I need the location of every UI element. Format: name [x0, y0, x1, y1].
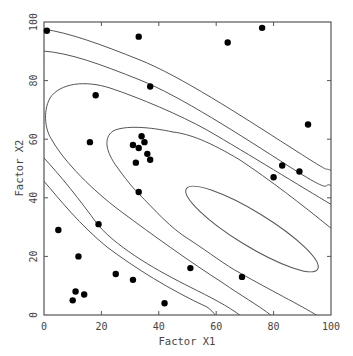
data-point [72, 288, 78, 294]
data-point [136, 145, 142, 151]
data-point [136, 189, 142, 195]
data-point [92, 92, 98, 98]
data-point [259, 25, 265, 31]
contour-scatter-plot: 0 20 40 60 80 100 0 20 40 60 80 100 Fact… [0, 0, 353, 356]
x-tick-label: 40 [153, 321, 165, 332]
data-point [161, 300, 167, 306]
x-tick-label: 60 [210, 321, 222, 332]
data-point [70, 297, 76, 303]
x-tick-label: 20 [95, 321, 107, 332]
y-tick-label: 20 [28, 250, 39, 262]
contour-c [46, 84, 332, 316]
data-point [136, 33, 142, 39]
data-points [44, 25, 312, 307]
data-point [87, 139, 93, 145]
x-axis-title: Factor X1 [159, 335, 216, 347]
x-tick-label: 80 [268, 321, 280, 332]
contour-lines [43, 29, 332, 316]
data-point [147, 157, 153, 163]
data-point [55, 227, 61, 233]
data-point [138, 133, 144, 139]
data-point [113, 271, 119, 277]
data-point [130, 142, 136, 148]
data-point [147, 83, 153, 89]
data-point [75, 253, 81, 259]
data-point [224, 39, 230, 45]
data-point [44, 28, 50, 34]
data-point [296, 168, 302, 174]
y-tick-label: 80 [28, 75, 39, 87]
data-point [144, 151, 150, 157]
contour-d [107, 127, 332, 316]
x-ticks [101, 22, 273, 315]
data-point [81, 291, 87, 297]
y-tick-labels: 0 20 40 60 80 100 [28, 13, 39, 318]
x-tick-label: 100 [322, 321, 340, 332]
x-tick-label: 0 [41, 321, 47, 332]
y-ticks [44, 81, 331, 257]
y-axis-title: Factor X2 [13, 140, 25, 197]
contour-a [43, 29, 332, 171]
y-tick-label: 40 [28, 192, 39, 204]
data-point [141, 139, 147, 145]
y-tick-label: 0 [28, 312, 39, 318]
data-point [133, 159, 139, 165]
x-tick-labels: 0 20 40 60 80 100 [41, 321, 340, 332]
data-point [95, 221, 101, 227]
data-point [279, 162, 285, 168]
data-point [130, 277, 136, 283]
y-tick-label: 100 [28, 13, 39, 31]
plot-frame [44, 22, 331, 315]
data-point [187, 265, 193, 271]
data-point [305, 121, 311, 127]
y-tick-label: 60 [28, 133, 39, 145]
data-point [239, 274, 245, 280]
data-point [270, 174, 276, 180]
contour-b [43, 51, 332, 186]
